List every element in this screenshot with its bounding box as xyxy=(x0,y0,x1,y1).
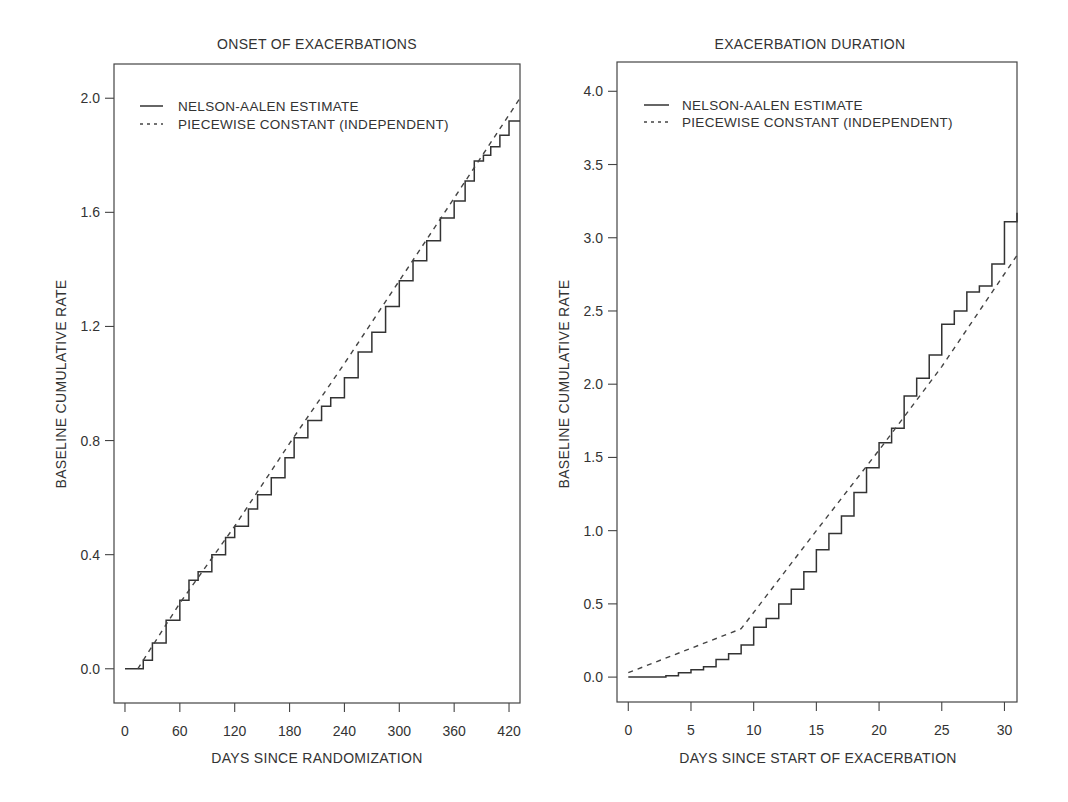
x-axis: 060120180240300360420 xyxy=(121,703,521,739)
chart-title: ONSET OF EXACERBATIONS xyxy=(217,36,417,52)
y-tick-label: 4.0 xyxy=(584,83,604,99)
y-tick-label: 2.5 xyxy=(584,303,604,319)
y-tick-label: 0.4 xyxy=(81,547,101,563)
legend: NELSON-AALEN ESTIMATE PIECEWISE CONSTANT… xyxy=(140,99,449,132)
legend-label-nelson-aalen: NELSON-AALEN ESTIMATE xyxy=(178,99,359,114)
x-tick-label: 10 xyxy=(746,722,762,738)
x-tick-label: 120 xyxy=(223,723,247,739)
chart-exacerbation-duration: EXACERBATION DURATION DAYS SINCE START O… xyxy=(556,36,1017,766)
y-tick-label: 3.0 xyxy=(584,230,604,246)
x-axis-label: DAYS SINCE START OF EXACERBATION xyxy=(679,750,956,766)
legend-label-piecewise-constant: PIECEWISE CONSTANT (INDEPENDENT) xyxy=(178,117,449,132)
x-axis: 051015202530 xyxy=(624,702,1012,738)
y-tick-label: 0.0 xyxy=(584,669,604,685)
y-axis: 0.00.51.01.52.02.53.03.54.0 xyxy=(584,83,617,685)
series-nelson-aalen xyxy=(628,213,1017,677)
x-tick-label: 5 xyxy=(687,722,695,738)
plot-frame xyxy=(617,62,1017,702)
x-tick-label: 60 xyxy=(172,723,188,739)
figure: ONSET OF EXACERBATIONS DAYS SINCE RANDOM… xyxy=(0,0,1068,802)
x-tick-label: 25 xyxy=(934,722,950,738)
x-tick-label: 360 xyxy=(442,723,466,739)
y-tick-label: 1.6 xyxy=(81,204,101,220)
y-tick-label: 1.0 xyxy=(584,523,604,539)
y-tick-label: 0.0 xyxy=(81,661,101,677)
series-piecewise-constant xyxy=(138,98,520,669)
y-tick-label: 0.5 xyxy=(584,596,604,612)
y-tick-label: 0.8 xyxy=(81,433,101,449)
y-tick-label: 2.0 xyxy=(584,376,604,392)
x-tick-label: 20 xyxy=(871,722,887,738)
legend-label-nelson-aalen: NELSON-AALEN ESTIMATE xyxy=(682,98,863,113)
legend-label-piecewise-constant: PIECEWISE CONSTANT (INDEPENDENT) xyxy=(682,115,953,130)
y-axis-label: BASELINE CUMULATIVE RATE xyxy=(556,280,572,489)
x-axis-label: DAYS SINCE RANDOMIZATION xyxy=(211,750,422,766)
x-tick-label: 180 xyxy=(278,723,302,739)
chart-onset-of-exacerbations: ONSET OF EXACERBATIONS DAYS SINCE RANDOM… xyxy=(53,36,521,766)
y-tick-label: 3.5 xyxy=(584,157,604,173)
chart-title: EXACERBATION DURATION xyxy=(715,36,906,52)
x-tick-label: 0 xyxy=(121,723,129,739)
x-tick-label: 15 xyxy=(809,722,825,738)
y-axis: 0.00.40.81.21.62.0 xyxy=(81,90,114,677)
x-tick-label: 420 xyxy=(497,723,521,739)
series-piecewise-constant xyxy=(628,255,1017,672)
x-tick-label: 0 xyxy=(624,722,632,738)
x-tick-label: 240 xyxy=(333,723,357,739)
x-tick-label: 30 xyxy=(997,722,1013,738)
y-tick-label: 1.5 xyxy=(584,449,604,465)
legend: NELSON-AALEN ESTIMATE PIECEWISE CONSTANT… xyxy=(644,98,953,130)
x-tick-label: 300 xyxy=(388,723,412,739)
y-tick-label: 2.0 xyxy=(81,90,101,106)
plot-frame xyxy=(114,64,520,703)
y-axis-label: BASELINE CUMULATIVE RATE xyxy=(53,280,69,489)
y-tick-label: 1.2 xyxy=(81,318,101,334)
